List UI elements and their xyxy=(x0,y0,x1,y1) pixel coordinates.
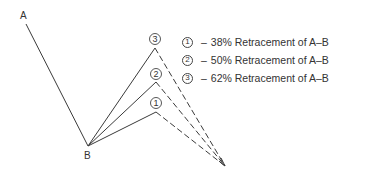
svg-text:1: 1 xyxy=(153,98,158,108)
legend-text: 50% Retracement of A–B xyxy=(211,54,329,66)
legend-item-62: 3 – 62% Retracement of A–B xyxy=(182,69,329,87)
legend-dash: – xyxy=(201,72,207,84)
legend-text: 38% Retracement of A–B xyxy=(211,36,329,48)
line-b-peak-2 xyxy=(88,82,156,146)
legend: 1 – 38% Retracement of A–B 2 – 50% Retra… xyxy=(182,33,329,87)
legend-dash: – xyxy=(201,36,207,48)
circled-number-icon: 2 xyxy=(182,55,193,66)
peak-2-marker: 2 xyxy=(151,69,162,80)
legend-item-50: 2 – 50% Retracement of A–B xyxy=(182,51,329,69)
circled-number-icon: 3 xyxy=(182,73,193,84)
line-b-peak-1 xyxy=(88,112,156,146)
circled-number-icon: 1 xyxy=(182,37,193,48)
svg-text:3: 3 xyxy=(152,34,157,44)
label-a: A xyxy=(20,10,27,21)
label-b: B xyxy=(84,150,91,161)
line-a-b xyxy=(26,24,88,146)
legend-item-38: 1 – 38% Retracement of A–B xyxy=(182,33,329,51)
retracement-diagram: A B 3 2 1 xyxy=(0,0,372,180)
legend-text: 62% Retracement of A–B xyxy=(211,72,329,84)
line-b-peak-3 xyxy=(88,48,155,146)
peak-3-marker: 3 xyxy=(150,34,161,45)
peak-1-marker: 1 xyxy=(151,98,162,109)
dashed-peak-1 xyxy=(156,112,225,166)
legend-dash: – xyxy=(201,54,207,66)
svg-text:2: 2 xyxy=(153,69,158,79)
dashed-peak-2 xyxy=(156,82,225,166)
